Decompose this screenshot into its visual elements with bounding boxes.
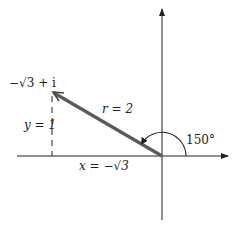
y-label: y = 1 xyxy=(24,119,56,131)
point-label: −√3 + i xyxy=(9,77,56,89)
angle-label: 150° xyxy=(186,134,215,146)
x-label: x = −√3 xyxy=(79,160,129,172)
angle-arc xyxy=(142,132,186,156)
radius-label: r = 2 xyxy=(102,103,133,115)
